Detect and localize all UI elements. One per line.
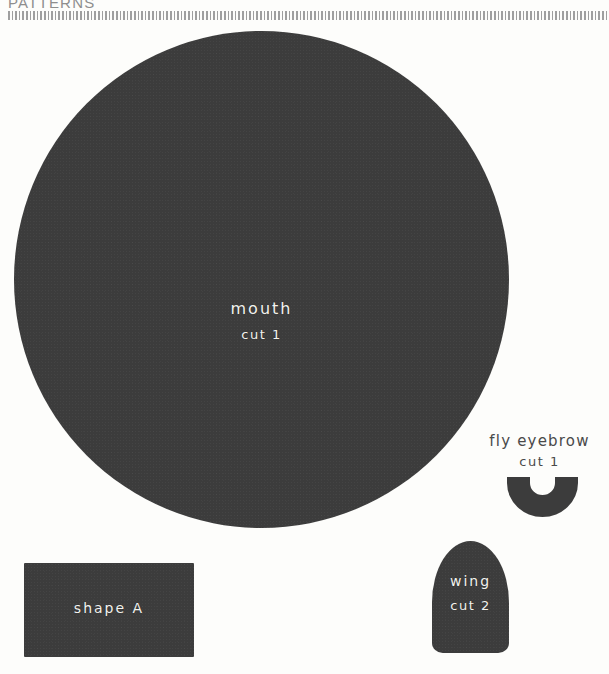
pattern-piece-fly-eyebrow-labels: fly eyebrow cut 1 [470, 432, 609, 469]
page-title: PATTERNS [8, 0, 95, 11]
pattern-piece-fly-eyebrow-cut-count: cut 1 [470, 454, 609, 469]
pattern-piece-fly-eyebrow [507, 477, 578, 517]
pattern-piece-wing-cut-count: cut 2 [432, 598, 509, 613]
pattern-piece-wing-label: wing [432, 573, 509, 589]
pattern-piece-shape-a-label: shape A [24, 600, 194, 616]
u-arch-shape-icon [507, 477, 578, 517]
pattern-piece-mouth: mouth cut 1 [14, 31, 509, 528]
pattern-piece-shape-a: shape A [24, 563, 194, 657]
pattern-sheet: PATTERNS mouth cut 1 shape A wing cut 2 … [0, 0, 609, 674]
pattern-piece-wing: wing cut 2 [432, 541, 509, 653]
pattern-piece-fly-eyebrow-label: fly eyebrow [470, 432, 609, 450]
pattern-piece-mouth-cut-count: cut 1 [14, 327, 509, 342]
dashed-divider [8, 11, 609, 20]
pattern-piece-mouth-label: mouth [14, 299, 509, 318]
